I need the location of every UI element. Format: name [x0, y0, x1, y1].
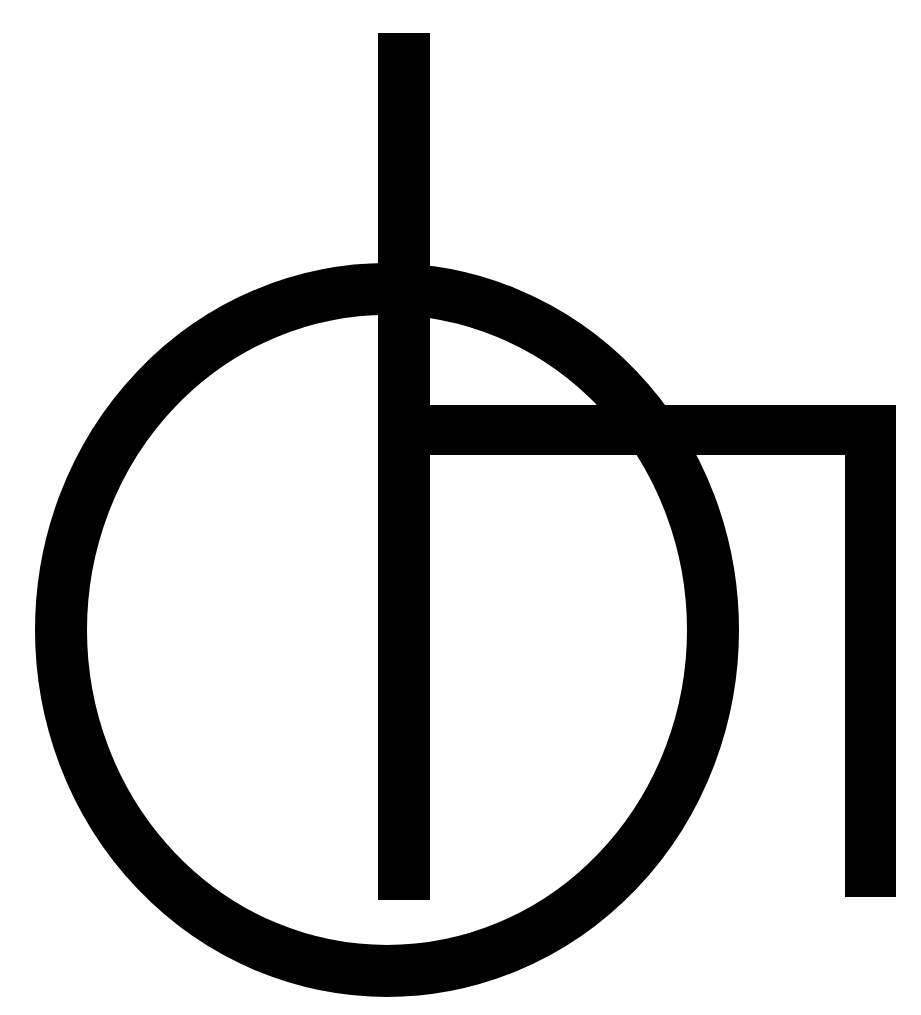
vertical-bar-right [845, 405, 896, 897]
monogram-logo-icon [0, 0, 921, 1015]
horizontal-bar [430, 405, 896, 455]
vertical-bar-left [378, 33, 430, 900]
